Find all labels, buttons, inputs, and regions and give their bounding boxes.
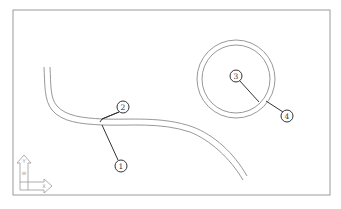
curve-outer-edge[interactable] xyxy=(44,67,243,180)
callout-1[interactable]: 1 xyxy=(115,160,127,172)
callout-4[interactable]: 4 xyxy=(281,110,293,122)
callout-2[interactable]: 2 xyxy=(117,101,129,113)
callout-3-label: 3 xyxy=(234,72,239,81)
curve-inner-edge[interactable] xyxy=(50,67,247,176)
leader-1 xyxy=(102,125,118,160)
callout-2-label: 2 xyxy=(121,103,126,112)
leader-2b xyxy=(100,112,119,122)
ucs-x-arrow xyxy=(20,179,52,193)
callout-1-label: 1 xyxy=(119,162,124,171)
viewport-frame xyxy=(13,10,330,195)
ucs-y-label: Y xyxy=(21,158,26,164)
ucs-icon: Y W X xyxy=(17,155,52,193)
leader-3 xyxy=(239,80,259,102)
ucs-x-label: X xyxy=(42,183,46,189)
offset-curve[interactable] xyxy=(44,67,247,180)
ucs-w-label: W xyxy=(22,171,27,176)
drawing-canvas[interactable]: 1 2 3 4 Y W X xyxy=(0,0,341,209)
callout-4-label: 4 xyxy=(285,112,290,121)
drawing-svg: 1 2 3 4 Y W X xyxy=(0,0,341,209)
callout-3[interactable]: 3 xyxy=(230,70,242,82)
leader-lines xyxy=(100,80,283,160)
leader-4 xyxy=(266,101,283,112)
